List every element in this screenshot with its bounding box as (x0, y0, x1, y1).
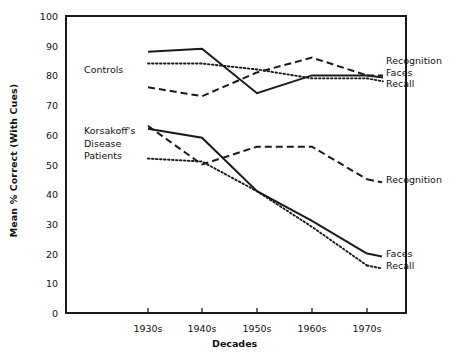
patients-recognition-label: Recognition (386, 174, 442, 186)
controls-faces-label: Faces (386, 67, 442, 79)
patients-group-label-line-2: Disease (84, 138, 135, 151)
patients-group-label-line-1: Korsakoff's (84, 125, 135, 138)
series-leader-5 (367, 265, 382, 268)
controls-group-label: Controls (84, 64, 123, 77)
patients-faces-label: Faces (386, 248, 414, 260)
chart-container: Mean % Correct (With Cues) 0102030405060… (0, 0, 475, 363)
patients-group-label-line-3: Patients (84, 150, 135, 163)
series-leader-4 (367, 254, 382, 257)
patients-group-label: Korsakoff's Disease Patients (84, 125, 135, 163)
series-lines (148, 49, 383, 269)
x-axis-title: Decades (212, 338, 257, 349)
series-line-controls-faces (148, 49, 367, 94)
series-leader-2 (367, 78, 383, 81)
patients-recognition-label-text: Recognition (386, 174, 442, 186)
patients-recall-label: Recall (386, 260, 414, 272)
controls-group-label-text: Controls (84, 64, 123, 77)
controls-recognition-label: Recognition (386, 55, 442, 67)
series-line-korsakoff-s-disease-patients-recall (148, 159, 367, 266)
x-axis-title-text: Decades (212, 338, 257, 349)
patients-lower-series-labels: Faces Recall (386, 248, 414, 271)
controls-recall-label: Recall (386, 78, 442, 90)
series-leader-3 (367, 179, 382, 182)
plot-frame (66, 16, 406, 313)
controls-series-labels: Recognition Faces Recall (386, 55, 442, 90)
